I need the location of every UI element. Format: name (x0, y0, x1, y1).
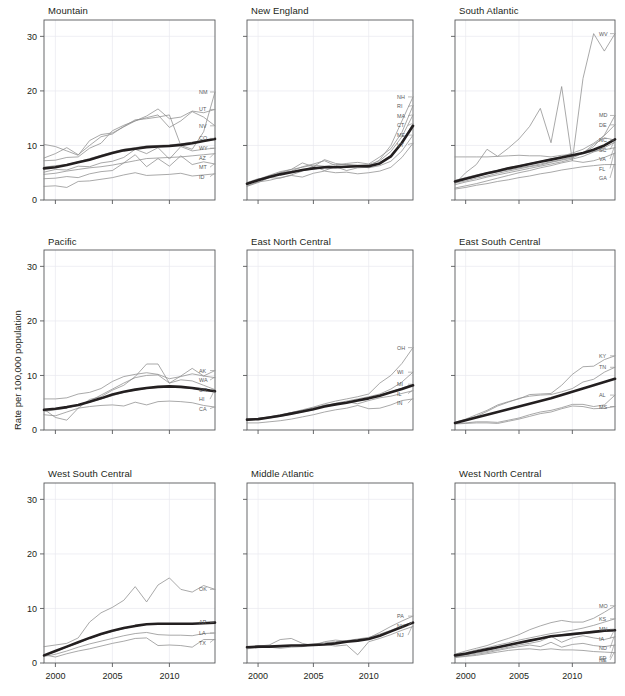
series-end-label: AZ (199, 155, 207, 161)
x-tick-label: 2005 (102, 671, 122, 681)
series-end-label: NC (599, 137, 607, 143)
y-tick-label: 0 (32, 658, 37, 668)
series-end-label: AL (599, 392, 606, 398)
series-end-label: OH (397, 345, 405, 351)
series-line (44, 373, 215, 399)
series-end-label: CT (397, 122, 405, 128)
series-end-label: DE (599, 122, 607, 128)
panel-title: South Atlantic (459, 5, 519, 16)
series-end-label: HI (199, 396, 204, 402)
series-end-label: GA (599, 175, 607, 181)
series-end-label: NM (199, 89, 208, 95)
series-end-label: MO (599, 603, 608, 609)
series-line (44, 364, 215, 420)
series-end-label: MD (599, 112, 607, 118)
series-line (44, 173, 215, 188)
series-end-label: IA (599, 636, 604, 642)
series-end-label: VT (397, 142, 405, 148)
series-line (247, 372, 413, 419)
panel-title: West North Central (459, 468, 541, 479)
x-tick-label: 2005 (509, 671, 529, 681)
series-end-label: WY (199, 145, 208, 151)
series-line (455, 165, 615, 190)
panel-plot: 0102030NMUTNVCOWYAZMTID (18, 16, 221, 224)
series-line (455, 356, 615, 423)
series-end-label: NH (397, 94, 405, 100)
series-end-label: TN (599, 364, 606, 370)
series-end-label: WV (599, 31, 608, 37)
series-line (455, 606, 615, 655)
y-tick-label: 30 (27, 495, 37, 505)
series-line (247, 384, 413, 419)
series-end-label: KS (599, 616, 607, 622)
series-end-label: MT (199, 164, 207, 170)
series-line (455, 395, 615, 423)
series-line (247, 97, 413, 186)
panel-title: New England (251, 5, 309, 16)
series-line (44, 578, 215, 647)
y-tick-label: 30 (27, 262, 37, 272)
series-end-label: RI (397, 103, 402, 109)
x-tick-label: 2010 (159, 671, 179, 681)
panel-title: Mountain (48, 5, 88, 16)
y-tick-label: 20 (27, 316, 37, 326)
series-end-label: NV (199, 123, 207, 129)
series-end-label: MA (397, 113, 405, 119)
x-tick-label: 2000 (45, 671, 65, 681)
series-end-label: LA (199, 630, 206, 636)
y-tick-label: 10 (27, 604, 37, 614)
series-line (455, 153, 615, 188)
series-line (44, 401, 215, 416)
series-line (247, 143, 413, 186)
series-end-label: ND (599, 645, 607, 651)
panel-title: West South Central (48, 468, 132, 479)
y-tick-label: 20 (27, 549, 37, 559)
region-trend-line (455, 379, 615, 423)
series-end-label: AR (199, 619, 207, 625)
series-end-label: IL (397, 391, 402, 397)
region-trend-line (44, 623, 215, 656)
series-end-label: MI (397, 381, 403, 387)
series-end-label: MN (599, 626, 607, 632)
series-end-label: MS (599, 404, 607, 410)
series-end-label: OR (199, 387, 207, 393)
series-line (247, 348, 413, 421)
series-end-label: SC (599, 147, 607, 153)
y-tick-label: 30 (27, 32, 37, 42)
series-end-label: NJ (397, 632, 404, 638)
series-line (44, 638, 215, 657)
series-end-label: CO (199, 135, 207, 141)
series-end-label: FL (599, 166, 605, 172)
panel-plot: 200020052010PANYNJ (221, 479, 419, 687)
x-tick-label: 2000 (248, 671, 268, 681)
y-tick-label: 10 (27, 371, 37, 381)
series-end-label: KY (599, 353, 607, 359)
y-tick-label: 20 (27, 86, 37, 96)
series-end-label: AK (199, 368, 207, 374)
series-end-label: NE (599, 657, 607, 663)
x-tick-label: 2000 (456, 671, 476, 681)
x-tick-label: 2010 (359, 671, 379, 681)
series-end-label: ID (199, 174, 204, 180)
series-end-label: UT (199, 106, 207, 112)
y-tick-label: 10 (27, 141, 37, 151)
figure-root: Rate per 100,000 populationMountain01020… (0, 0, 625, 696)
panel-plot: 0102030200020052010OKARLATX (18, 479, 221, 687)
panel-plot: KYTNALMS (429, 246, 621, 454)
x-tick-label: 2005 (303, 671, 323, 681)
series-end-label: TX (199, 640, 206, 646)
series-line (455, 115, 615, 182)
panel-plot: WVMDDENCSCVAFLGA (429, 16, 621, 224)
y-tick-label: 0 (32, 425, 37, 435)
series-end-label: OK (199, 586, 207, 592)
y-tick-label: 0 (32, 195, 37, 205)
series-end-label: ME (397, 132, 405, 138)
series-end-label: WA (199, 377, 208, 383)
series-line (455, 125, 615, 181)
x-tick-label: 2010 (562, 671, 582, 681)
series-end-label: CA (199, 406, 207, 412)
series-line (455, 148, 615, 157)
region-trend-line (44, 386, 215, 409)
panel-plot: NHRIMACTMEVT (221, 16, 419, 224)
panel-plot: 200020052010MOKSMNIANDSDNE (429, 479, 621, 687)
